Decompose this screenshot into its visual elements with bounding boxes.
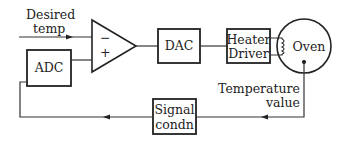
comparator-plus: +: [100, 45, 110, 60]
input-label-line2: temp: [33, 21, 65, 36]
adc-label: ADC: [34, 60, 64, 75]
comparator-triangle: [92, 20, 136, 72]
signal-to-adc-line: [20, 82, 153, 117]
feedback-label-line2: value: [265, 95, 300, 110]
input-label-line1: Desired: [26, 7, 75, 22]
heater-driver-label-line2: Driver: [228, 46, 268, 61]
arrow-left-icon: [103, 115, 110, 120]
heater-driver-label-line1: Heater: [226, 32, 270, 47]
control-loop-diagram: Desired temp − + ADC DAC Heater Driver O…: [0, 0, 346, 141]
arrow-right-icon: [66, 35, 73, 40]
feedback-label-line1: Temperature: [218, 81, 300, 96]
oven-label: Oven: [293, 39, 326, 54]
heater-lead-bottom: [270, 54, 282, 55]
comparator-minus: −: [100, 30, 110, 45]
dac-label: DAC: [165, 38, 194, 53]
arrow-left-icon: [261, 115, 268, 120]
signal-condn-label-line2: condn: [155, 117, 194, 132]
signal-condn-label-line1: Signal: [154, 102, 194, 117]
heater-lead-top: [270, 38, 282, 39]
diagram-svg: Desired temp − + ADC DAC Heater Driver O…: [0, 0, 346, 141]
heater-coil-icon: [282, 39, 284, 54]
